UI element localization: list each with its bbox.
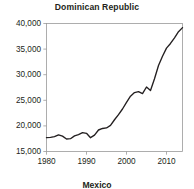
plot-area: 15,00020,00025,00030,00035,00040,0001980… (0, 0, 194, 189)
x-axis-tick-label: 1990 (67, 157, 107, 166)
x-axis-tick-label: 2000 (107, 157, 147, 166)
y-axis-tick-label: 30,000 (0, 70, 41, 79)
y-axis-tick-label: 25,000 (0, 96, 41, 105)
y-axis-tick-label: 20,000 (0, 121, 41, 130)
x-axis-tick-label: 1980 (27, 157, 67, 166)
y-axis-tick-label: 40,000 (0, 19, 41, 28)
next-panel-title: Mexico (0, 180, 194, 189)
y-axis-tick-label: 35,000 (0, 45, 41, 54)
chart-figure: Dominican Republic 15,00020,00025,00030,… (0, 0, 194, 189)
y-axis-tick-label: 15,000 (0, 147, 41, 156)
x-axis-tick-label: 2010 (147, 157, 187, 166)
